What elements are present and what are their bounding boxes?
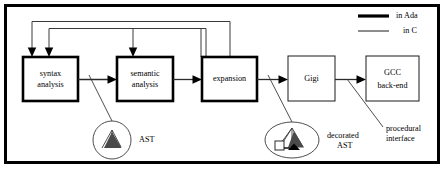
legend-label-c: in C (403, 26, 417, 35)
box-gcc-back-end-label-line1: GCC (384, 68, 401, 77)
box-gigi[interactable]: Gigi (288, 56, 335, 101)
box-gigi-label-line1: Gigi (304, 74, 319, 83)
legend-label-ada: in Ada (396, 11, 418, 20)
callout-procedural-interface-label-line1: procedural (386, 124, 422, 133)
callout-decorated-ast-label-line2: AST (337, 141, 352, 150)
box-syntax-analysis-label-line1: syntax (40, 69, 61, 78)
callout-ast-label: AST (139, 135, 154, 144)
decorated-ast-node-square (275, 141, 284, 150)
box-gcc-back-end-shape (366, 56, 419, 101)
box-expansion-label-line1: expansion (213, 74, 246, 83)
pipeline-diagram: syntax analysis semantic analysis expans… (0, 0, 444, 174)
box-semantic-analysis-label-line2: analysis (132, 80, 158, 89)
callout-procedural-interface-label-line2: interface (386, 134, 415, 143)
box-syntax-analysis[interactable]: syntax analysis (23, 57, 78, 101)
callout-decorated-ast-label-line1: decorated (327, 131, 359, 140)
box-expansion[interactable]: expansion (202, 57, 257, 101)
box-syntax-analysis-label-line2: analysis (37, 80, 63, 89)
box-gcc-back-end[interactable]: GCC back-end (366, 56, 419, 101)
box-semantic-analysis-label-line1: semantic (130, 69, 159, 78)
box-gcc-back-end-label-line2: back-end (377, 81, 407, 90)
box-semantic-analysis[interactable]: semantic analysis (117, 57, 173, 101)
